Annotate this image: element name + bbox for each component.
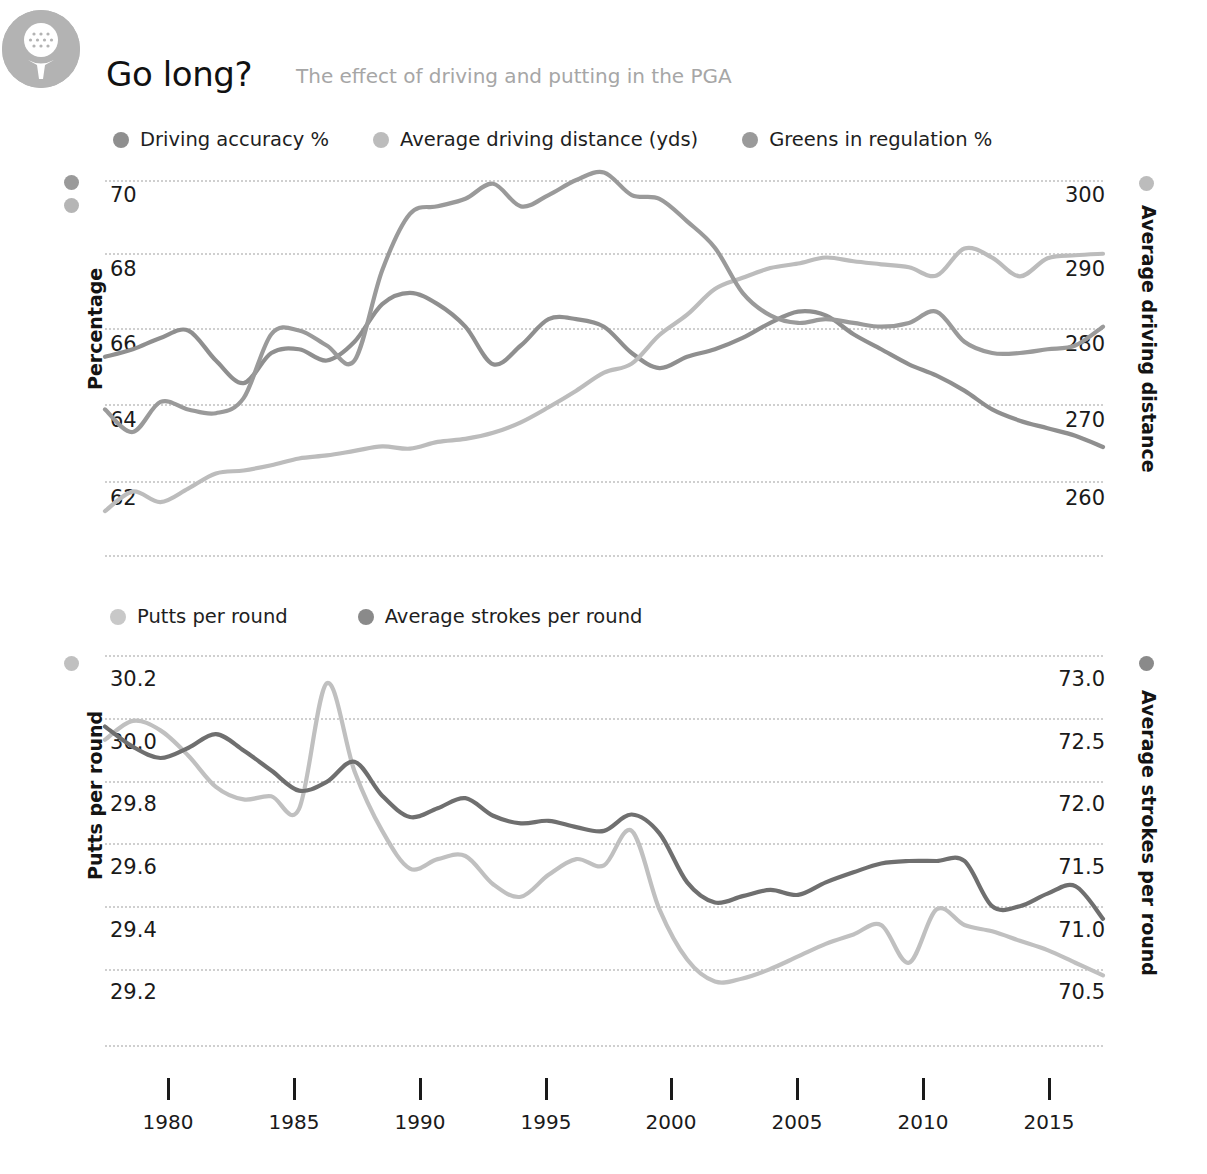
- gridline: [105, 555, 1103, 557]
- x-tick-label-1995: 1995: [521, 1110, 572, 1134]
- x-tick-label-1980: 1980: [143, 1110, 194, 1134]
- chart-page: Go long? The effect of driving and putti…: [0, 0, 1207, 1174]
- x-axis: 1980 1985 1990 1995 2000 2005 2010 2015: [0, 1078, 1207, 1168]
- page-subtitle: The effect of driving and putting in the…: [296, 64, 732, 88]
- x-tick-label-1990: 1990: [395, 1110, 446, 1134]
- series-line: [105, 727, 1103, 919]
- legend-label: Average driving distance (yds): [400, 128, 698, 151]
- axis-title-percentage: Percentage: [84, 268, 106, 390]
- x-tick-mark: [293, 1078, 296, 1100]
- x-tick-label-1985: 1985: [269, 1110, 320, 1134]
- legend-label: Putts per round: [137, 605, 288, 628]
- golf-ball-on-tee-icon: [2, 10, 80, 88]
- x-tick-mark: [922, 1078, 925, 1100]
- legend-dot-icon: [742, 132, 758, 148]
- legend-item-driving-distance[interactable]: Average driving distance (yds): [373, 128, 698, 151]
- legend-label: Driving accuracy %: [140, 128, 329, 151]
- series-line: [105, 248, 1103, 511]
- axis-marker-dot-bottom-right: [1139, 656, 1154, 671]
- legend-dot-icon: [358, 609, 374, 625]
- axis-title-putts-per-round: Putts per round: [84, 711, 106, 880]
- gridline: [105, 1045, 1103, 1047]
- x-tick-mark: [167, 1078, 170, 1100]
- legend-dot-icon: [373, 132, 389, 148]
- axis-title-avg-driving-distance: Average driving distance: [1138, 205, 1160, 473]
- x-tick-mark: [1048, 1078, 1051, 1100]
- x-tick-label-2005: 2005: [772, 1110, 823, 1134]
- chart-top-plot-area: [105, 180, 1103, 555]
- legend-item-driving-accuracy[interactable]: Driving accuracy %: [113, 128, 329, 151]
- chart-top-lines: [105, 180, 1103, 555]
- legend-dot-icon: [113, 132, 129, 148]
- legend-top-chart: Driving accuracy % Average driving dista…: [113, 128, 992, 151]
- chart-bottom-plot-area: [105, 655, 1103, 1045]
- axis-marker-dot-top-right: [1139, 176, 1154, 191]
- legend-label: Average strokes per round: [385, 605, 643, 628]
- axis-marker-dot-bottom-left: [64, 656, 79, 671]
- x-tick-label-2010: 2010: [898, 1110, 949, 1134]
- chart-bottom-lines: [105, 655, 1103, 1045]
- x-tick-mark: [670, 1078, 673, 1100]
- axis-marker-dot-top-left-a: [64, 175, 79, 190]
- legend-item-avg-strokes-per-round[interactable]: Average strokes per round: [358, 605, 643, 628]
- x-tick-mark: [796, 1078, 799, 1100]
- legend-label: Greens in regulation %: [769, 128, 992, 151]
- series-line: [105, 172, 1103, 432]
- x-tick-label-2000: 2000: [646, 1110, 697, 1134]
- page-title: Go long?: [106, 54, 252, 94]
- x-tick-mark: [419, 1078, 422, 1100]
- x-tick-label-2015: 2015: [1024, 1110, 1075, 1134]
- legend-item-putts-per-round[interactable]: Putts per round: [110, 605, 288, 628]
- legend-dot-icon: [110, 609, 126, 625]
- axis-marker-dot-top-left-b: [64, 198, 79, 213]
- axis-title-avg-strokes-per-round: Average strokes per round: [1138, 690, 1160, 976]
- x-tick-mark: [545, 1078, 548, 1100]
- legend-item-greens-in-regulation[interactable]: Greens in regulation %: [742, 128, 992, 151]
- legend-bottom-chart: Putts per round Average strokes per roun…: [110, 605, 642, 628]
